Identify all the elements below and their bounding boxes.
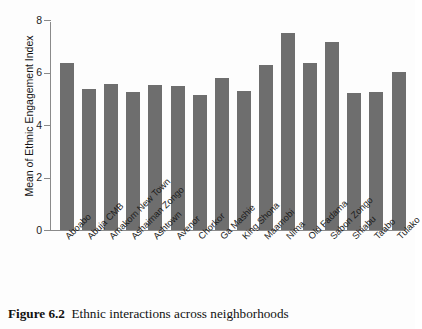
y-axis-tick-label-text: 6 — [20, 67, 42, 78]
y-axis-tick-label-text: 2 — [20, 172, 42, 183]
bar — [392, 72, 406, 230]
y-axis-tick-label-text: 4 — [20, 120, 42, 131]
y-axis-tick-label: 8 — [14, 15, 42, 26]
bar — [171, 86, 185, 230]
y-axis-tick-label: 6 — [14, 67, 42, 78]
bar — [82, 89, 96, 230]
bar — [60, 63, 74, 230]
bar-series — [50, 20, 405, 230]
y-axis-tick-label: 2 — [14, 172, 42, 183]
y-axis-tick-label: 4 — [14, 120, 42, 131]
bar — [369, 92, 383, 230]
figure-caption: Figure 6.2 Ethnic interactions across ne… — [8, 306, 408, 321]
bar — [215, 78, 229, 230]
y-axis-tick-label: 0 — [14, 225, 42, 236]
x-axis-labels: AboaboAbuja CMBAmakom New TownAshaiman Z… — [50, 231, 410, 301]
bar — [193, 95, 207, 230]
y-axis-tick-label-text: 0 — [20, 225, 42, 236]
bar-chart: Mean of Ethnic Engagement Index 02468 Ab… — [0, 0, 415, 300]
y-axis-tick-label-text: 8 — [20, 15, 42, 26]
figure-caption-text: Ethnic interactions across neighborhoods — [72, 306, 289, 321]
figure-caption-label: Figure 6.2 — [8, 306, 65, 321]
bar — [281, 33, 295, 230]
bar — [303, 63, 317, 230]
